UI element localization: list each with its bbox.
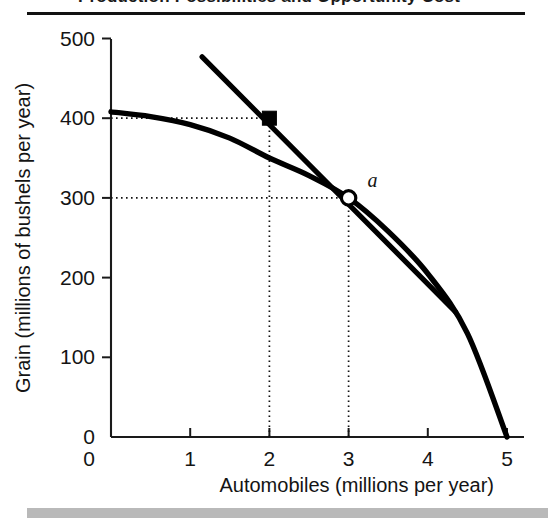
- x-axis-title: Automobiles (millions per year): [219, 474, 494, 496]
- ppf-curve: [111, 112, 507, 437]
- x-tick-label-2: 2: [264, 447, 276, 470]
- x-tick-label-5: 5: [501, 447, 513, 470]
- y-tick-label-400: 400: [60, 106, 95, 129]
- tangent-line: [202, 57, 455, 312]
- y-axis-ticks: 0100200300400500: [60, 27, 111, 449]
- y-tick-label-100: 100: [60, 345, 95, 368]
- square-marker: [262, 111, 276, 125]
- y-tick-label-500: 500: [60, 27, 95, 50]
- y-axis-title: Grain (millions of bushels per year): [12, 83, 34, 393]
- figure-container: Production Possibilities and Opportunity…: [0, 0, 548, 518]
- footer-strip: [27, 508, 548, 518]
- x-axis-ticks: 012345: [83, 428, 513, 470]
- ppf-chart-plot: 0100200300400500 012345 a Automobiles (m…: [0, 14, 548, 508]
- x-tick-label-3: 3: [343, 447, 355, 470]
- y-tick-label-300: 300: [60, 186, 95, 209]
- y-tick-label-0: 0: [83, 425, 95, 448]
- data-point-markers: a: [262, 111, 377, 205]
- point-label-a: a: [368, 169, 378, 191]
- figure-caption: Production Possibilities and Opportunity…: [78, 0, 460, 7]
- x-tick-label-1: 1: [184, 447, 196, 470]
- x-tick-label-4: 4: [422, 447, 434, 470]
- x-tick-label-0: 0: [83, 447, 95, 470]
- point-a: [341, 191, 355, 205]
- y-tick-label-200: 200: [60, 266, 95, 289]
- figure-caption-clip: Production Possibilities and Opportunity…: [0, 0, 548, 11]
